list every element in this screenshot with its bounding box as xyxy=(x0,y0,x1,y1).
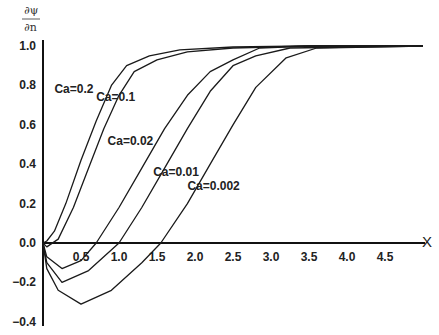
y-tick-label: 0.6 xyxy=(19,118,36,132)
x-tick-label: 2.0 xyxy=(187,250,204,264)
x-axis-label: X xyxy=(422,233,432,250)
y-tick-label: 0.0 xyxy=(19,236,36,250)
series-line-ca-0-02 xyxy=(43,46,423,269)
curve-label: Ca=0.002 xyxy=(187,179,240,193)
y-label-denominator: ∂n xyxy=(24,21,37,34)
x-tick-labels: 0.51.01.52.02.53.03.54.04.5 xyxy=(73,250,394,264)
y-tick-label: 0.8 xyxy=(19,78,36,92)
series-line-ca-0-2 xyxy=(43,46,423,243)
x-tick-label: 3.0 xyxy=(263,250,280,264)
y-axis-label: ∂ψ ∂n xyxy=(22,4,40,34)
x-tick-label: 4.0 xyxy=(339,250,356,264)
series-line-ca-0-1 xyxy=(43,46,423,247)
y-tick-label: −0.4 xyxy=(12,315,36,329)
curve-label: Ca=0.01 xyxy=(153,165,199,179)
curve-label: Ca=0.2 xyxy=(54,82,93,96)
curve-label: Ca=0.1 xyxy=(96,90,135,104)
curve-labels: Ca=0.2Ca=0.1Ca=0.02Ca=0.01Ca=0.002 xyxy=(54,82,240,193)
chart-plot-area: ∂ψ ∂n X 1.00.80.60.40.20.0−0.2−0.4 0.51.… xyxy=(0,0,439,335)
x-tick-label: 0.5 xyxy=(73,250,90,264)
x-tick-label: 1.0 xyxy=(111,250,128,264)
x-tick-label: 4.5 xyxy=(377,250,394,264)
data-series xyxy=(43,46,423,304)
y-label-numerator: ∂ψ xyxy=(24,4,38,17)
x-tick-label: 3.5 xyxy=(301,250,318,264)
y-tick-label: 0.4 xyxy=(19,157,36,171)
y-tick-labels: 1.00.80.60.40.20.0−0.2−0.4 xyxy=(12,39,36,329)
curve-label: Ca=0.02 xyxy=(108,134,154,148)
x-tick-label: 2.5 xyxy=(225,250,242,264)
y-tick-label: −0.2 xyxy=(12,275,36,289)
series-line-ca-0-002 xyxy=(43,46,423,304)
y-tick-label: 1.0 xyxy=(19,39,36,53)
series-line-ca-0-01 xyxy=(43,46,423,282)
y-tick-label: 0.2 xyxy=(19,197,36,211)
